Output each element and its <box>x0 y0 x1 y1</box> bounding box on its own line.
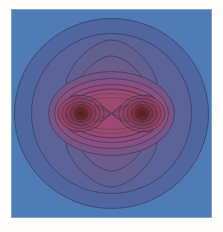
contour-svg <box>11 9 212 218</box>
plot-area <box>11 9 212 218</box>
contour-lobe-right-maximum <box>139 111 145 117</box>
chart-description: Filled contour map of a two-center (diat… <box>0 0 1 1</box>
contour-lobe-left-maximum <box>78 111 84 117</box>
contour-figure: Filled contour map of a two-center (diat… <box>0 0 223 232</box>
